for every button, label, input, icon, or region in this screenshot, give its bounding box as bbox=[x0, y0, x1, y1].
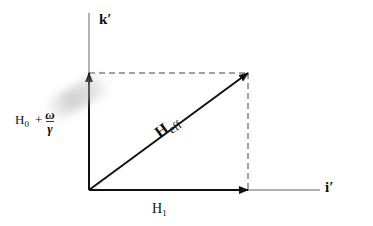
h1-label-main: H bbox=[152, 201, 162, 216]
h0-omega-gamma-label: H0+ωγ bbox=[15, 108, 55, 135]
h0-label-sub: 0 bbox=[24, 119, 29, 129]
i-prime-axis-label: i′ bbox=[325, 180, 333, 195]
plus-sign: + bbox=[35, 112, 42, 127]
h1-label-sub: 1 bbox=[162, 208, 167, 218]
h0-label-main: H bbox=[15, 112, 24, 127]
k-prime-axis-label: k′ bbox=[99, 12, 112, 27]
fraction-denominator-gamma: γ bbox=[45, 122, 54, 135]
h1-label: H1 bbox=[152, 202, 167, 218]
omega-over-gamma-fraction: ωγ bbox=[45, 108, 54, 135]
fraction-numerator-omega: ω bbox=[45, 108, 54, 121]
